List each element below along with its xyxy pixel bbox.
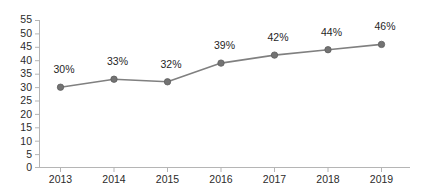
data-label-2017: 42% (258, 32, 298, 43)
x-tick-label-2016: 2016 (199, 174, 243, 185)
y-tick-label-25: 25 (8, 95, 32, 106)
chart-plot-area (0, 0, 421, 191)
y-tick-label-35: 35 (8, 68, 32, 79)
data-label-2016: 39% (205, 40, 245, 51)
data-label-2019: 46% (365, 21, 405, 32)
line-chart: 55 50 45 40 35 30 25 20 15 10 5 0 2013 2… (0, 0, 421, 191)
y-tick-label-30: 30 (8, 82, 32, 93)
y-tick-label-15: 15 (8, 122, 32, 133)
y-tick-label-40: 40 (8, 55, 32, 66)
data-label-2018: 44% (312, 27, 352, 38)
y-tick-label-10: 10 (8, 136, 32, 147)
x-tick-label-2018: 2018 (306, 174, 350, 185)
x-tick-label-2017: 2017 (253, 174, 297, 185)
y-tick-label-50: 50 (8, 28, 32, 39)
y-tick-label-20: 20 (8, 109, 32, 120)
data-label-2013: 30% (44, 64, 84, 75)
y-tick-label-55: 55 (8, 14, 32, 25)
y-tick-label-45: 45 (8, 41, 32, 52)
y-tick-label-5: 5 (8, 149, 32, 160)
data-label-2015: 32% (151, 59, 191, 70)
y-tick-label-0: 0 (8, 162, 32, 173)
x-tick-label-2015: 2015 (146, 174, 190, 185)
x-tick-label-2014: 2014 (92, 174, 136, 185)
data-label-2014: 33% (98, 56, 138, 67)
y-axis-ticks (35, 21, 40, 168)
x-tick-label-2013: 2013 (39, 174, 83, 185)
x-tick-label-2019: 2019 (360, 174, 404, 185)
x-axis-ticks (61, 168, 382, 173)
